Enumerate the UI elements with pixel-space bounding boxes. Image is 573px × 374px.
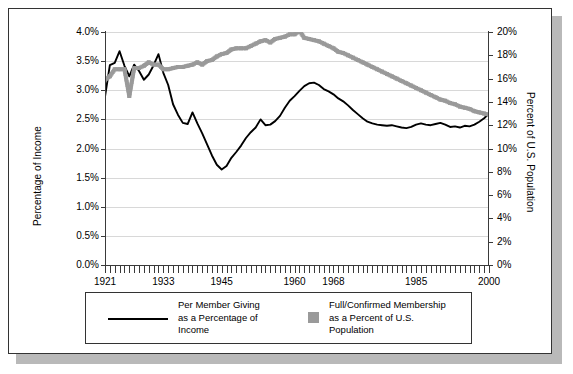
x-axis-minor-tick (402, 266, 403, 273)
x-axis-minor-tick (299, 266, 300, 273)
y-axis-left-tick-mark (101, 265, 105, 266)
x-axis-minor-tick (319, 266, 320, 273)
x-axis-minor-tick (333, 266, 334, 273)
x-axis-minor-tick (290, 266, 291, 273)
x-axis-minor-tick (450, 266, 451, 273)
y-axis-left-tick-label: 1.5% (53, 172, 99, 183)
x-axis-minor-tick (353, 266, 354, 273)
x-axis-minor-tick (231, 266, 232, 273)
x-axis-minor-tick (110, 266, 111, 273)
x-axis-minor-tick (115, 266, 116, 273)
x-axis-minor-tick (158, 266, 159, 273)
x-axis-minor-tick (406, 266, 407, 273)
y-axis-right-tick-mark (489, 149, 493, 150)
x-axis-minor-tick (227, 266, 228, 273)
x-axis-minor-tick (285, 266, 286, 273)
x-axis-minor-tick (431, 266, 432, 273)
x-axis-minor-tick (173, 266, 174, 273)
y-axis-right-tick-label: 10% (497, 143, 537, 154)
y-axis-left-tick-label: 3.5% (53, 55, 99, 66)
x-axis-minor-tick (256, 266, 257, 273)
x-axis-minor-tick (460, 266, 461, 273)
x-axis-minor-tick (139, 266, 140, 273)
plot-area (105, 32, 489, 265)
x-axis-minor-tick (455, 266, 456, 273)
series-canvas (105, 32, 489, 265)
y-axis-right-tick-mark (489, 218, 493, 219)
y-axis-left-tick-mark (101, 149, 105, 150)
x-axis-minor-tick (178, 266, 179, 273)
x-axis-tick-label: 1933 (140, 276, 186, 287)
x-axis-minor-tick (236, 266, 237, 273)
y-axis-right-tick-label: 16% (497, 73, 537, 84)
legend-label-membership: Full/Confirmed Membership as a Percent o… (329, 299, 469, 337)
x-axis-minor-tick (314, 266, 315, 273)
x-axis-minor-tick (163, 266, 164, 273)
x-axis-minor-tick (241, 266, 242, 273)
x-axis-minor-tick (124, 266, 125, 273)
x-axis-minor-tick (120, 266, 121, 273)
legend-label-giving-line3: Income (178, 324, 288, 337)
x-axis-minor-tick (202, 266, 203, 273)
series-membership (105, 32, 489, 117)
x-axis-minor-tick (343, 266, 344, 273)
x-axis-minor-tick (440, 266, 441, 273)
x-axis-minor-tick (367, 266, 368, 273)
x-axis-minor-tick (309, 266, 310, 273)
legend-key-line (108, 318, 168, 320)
y-axis-right-tick-mark (489, 55, 493, 56)
x-axis-minor-tick (295, 266, 296, 273)
y-axis-left-tick-label: 0.5% (53, 230, 99, 241)
x-axis-minor-tick (470, 266, 471, 273)
x-axis-minor-tick (144, 266, 145, 273)
x-axis-minor-tick (348, 266, 349, 273)
y-axis-right-tick-label: 2% (497, 236, 537, 247)
x-axis-minor-tick (387, 266, 388, 273)
y-axis-left-tick-label: 4.0% (53, 26, 99, 37)
x-axis-minor-tick (358, 266, 359, 273)
x-axis-minor-tick (197, 266, 198, 273)
legend-label-giving-line2: as a Percentage of (178, 312, 288, 325)
y-axis-right-tick-mark (489, 265, 493, 266)
x-axis-minor-tick (421, 266, 422, 273)
x-axis-minor-tick (154, 266, 155, 273)
x-axis-minor-tick (246, 266, 247, 273)
y-axis-left-tick-mark (101, 32, 105, 33)
x-axis-minor-tick (280, 266, 281, 273)
x-axis-minor-tick (372, 266, 373, 273)
x-axis-minor-tick (377, 266, 378, 273)
legend-key-square (308, 312, 319, 323)
x-axis-tick-label: 1968 (310, 276, 356, 287)
y-axis-left-tick-mark (101, 61, 105, 62)
x-axis-minor-tick (275, 266, 276, 273)
x-axis-minor-tick (382, 266, 383, 273)
x-axis-minor-tick (411, 266, 412, 273)
x-axis-minor-tick (192, 266, 193, 273)
x-axis-minor-tick (338, 266, 339, 273)
x-axis-minor-tick (445, 266, 446, 273)
x-axis-minor-tick (188, 266, 189, 273)
x-axis-minor-tick (397, 266, 398, 273)
legend-label-membership-line1: Full/Confirmed Membership (329, 299, 469, 312)
y-axis-left-tick-mark (101, 119, 105, 120)
x-axis-tick-label: 1921 (82, 276, 128, 287)
y-axis-right-tick-mark (489, 125, 493, 126)
x-axis-minor-tick (304, 266, 305, 273)
x-axis-minor-tick (489, 266, 490, 273)
x-axis-minor-tick (363, 266, 364, 273)
y-axis-title-left: Percentage of Income (32, 126, 43, 226)
x-axis-tick-label: 1945 (199, 276, 245, 287)
y-axis-right-tick-label: 20% (497, 26, 537, 37)
x-axis-minor-tick (183, 266, 184, 273)
y-axis-left-spine (105, 31, 106, 266)
y-axis-right-tick-label: 0% (497, 259, 537, 270)
x-axis-minor-tick (217, 266, 218, 273)
y-axis-left-tick-label: 0.0% (53, 259, 99, 270)
legend-label-membership-line2: as a Percent of U.S. (329, 312, 469, 325)
y-axis-left-tick-label: 1.0% (53, 201, 99, 212)
x-axis-minor-tick (134, 266, 135, 273)
legend-label-giving: Per Member Giving as a Percentage of Inc… (178, 299, 288, 337)
x-axis-minor-tick (324, 266, 325, 273)
y-axis-right-tick-label: 6% (497, 189, 537, 200)
x-axis-minor-tick (329, 266, 330, 273)
